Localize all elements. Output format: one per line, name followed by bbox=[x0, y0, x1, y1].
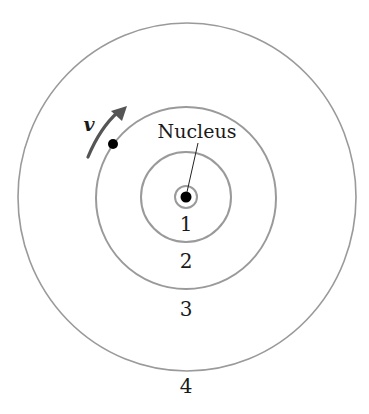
velocity-label: v bbox=[83, 113, 95, 135]
orbit-label-3: 3 bbox=[180, 297, 193, 321]
nucleus-label: Nucleus bbox=[158, 120, 237, 142]
orbit-label-4: 4 bbox=[180, 374, 193, 398]
electron-dot bbox=[108, 139, 118, 149]
arrowhead-icon bbox=[111, 106, 127, 121]
orbit-label-2: 2 bbox=[180, 249, 193, 273]
bohr-diagram: Nucleus v 1 2 3 4 bbox=[0, 0, 369, 414]
nucleus-pointer-line bbox=[187, 143, 198, 192]
nucleus-dot bbox=[181, 192, 192, 203]
orbit-label-1: 1 bbox=[180, 212, 193, 236]
